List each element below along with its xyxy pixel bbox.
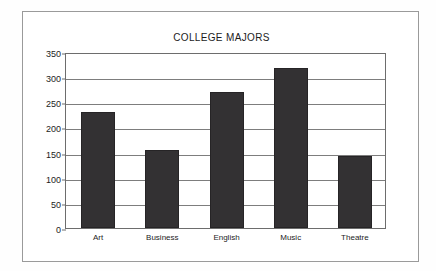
y-axis-tick-mark bbox=[62, 79, 66, 80]
y-axis-tick-mark bbox=[62, 154, 66, 155]
y-axis-tick-label: 250 bbox=[46, 99, 61, 109]
y-axis-tick-label: 0 bbox=[56, 225, 61, 235]
x-axis-category-label: English bbox=[213, 233, 239, 242]
gridline bbox=[66, 79, 385, 80]
y-axis-tick-label: 150 bbox=[46, 150, 61, 160]
y-axis-tick-label: 50 bbox=[51, 200, 61, 210]
x-axis-category-label: Music bbox=[280, 233, 301, 242]
y-axis-tick-label: 350 bbox=[46, 49, 61, 59]
y-axis-tick-mark bbox=[62, 129, 66, 130]
y-axis-tick-label: 100 bbox=[46, 175, 61, 185]
bar bbox=[210, 92, 244, 228]
y-axis-tick-mark bbox=[62, 104, 66, 105]
bar bbox=[274, 68, 308, 228]
x-axis-category-label: Business bbox=[146, 233, 178, 242]
chart-frame: COLLEGE MAJORS 050100150200250300350 Art… bbox=[22, 11, 419, 262]
y-axis-tick-mark bbox=[62, 204, 66, 205]
bar bbox=[145, 150, 179, 228]
y-axis-tick-mark bbox=[62, 54, 66, 55]
bar bbox=[81, 112, 115, 228]
y-axis-tick-mark bbox=[62, 179, 66, 180]
x-axis-category-label: Theatre bbox=[341, 233, 369, 242]
x-axis-category-label: Art bbox=[93, 233, 103, 242]
y-axis-tick-label: 200 bbox=[46, 124, 61, 134]
plot-area: 050100150200250300350 ArtBusinessEnglish… bbox=[65, 53, 386, 229]
y-axis-tick-label: 300 bbox=[46, 74, 61, 84]
bar bbox=[338, 156, 372, 228]
chart-title: COLLEGE MAJORS bbox=[23, 32, 420, 43]
chart-screenshot: COLLEGE MAJORS 050100150200250300350 Art… bbox=[0, 0, 436, 271]
y-axis-tick-mark bbox=[62, 230, 66, 231]
